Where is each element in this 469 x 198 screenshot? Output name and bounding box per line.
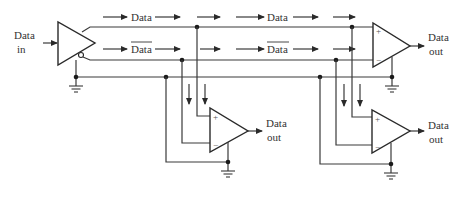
svg-text:+: + bbox=[376, 26, 381, 36]
bus-flow-labels: Data Data Data Data bbox=[103, 11, 355, 55]
bus-label-data-bar-1: Data bbox=[131, 43, 152, 55]
driver-amplifier: Data in bbox=[14, 22, 392, 92]
driver-triangle-icon bbox=[58, 22, 95, 65]
data-out-label-line2: out bbox=[267, 131, 281, 143]
data-out-label-line1: Data bbox=[428, 119, 449, 131]
bus-label-data-2: Data bbox=[267, 11, 288, 23]
differential-bus-diagram: Data in Data Data Data bbox=[0, 0, 469, 198]
data-line bbox=[82, 27, 373, 32]
svg-text:−: − bbox=[375, 142, 380, 152]
data-in-label-line2: in bbox=[17, 43, 26, 55]
data-out-label-line1: Data bbox=[266, 117, 287, 129]
svg-text:+: + bbox=[213, 112, 218, 122]
bus-label-data-bar-2: Data bbox=[267, 43, 288, 55]
data-out-label-line2: out bbox=[429, 45, 443, 57]
receiver-top-right: + − Data out bbox=[373, 23, 449, 92]
data-in-label-line1: Data bbox=[14, 29, 35, 41]
bus-label-data-1: Data bbox=[131, 11, 152, 23]
svg-text:−: − bbox=[213, 140, 218, 150]
ground-icon bbox=[384, 173, 398, 179]
data-out-label-line1: Data bbox=[428, 31, 449, 43]
ground-icon bbox=[69, 86, 83, 92]
data-bar-line bbox=[83, 57, 373, 60]
inverting-bubble-icon bbox=[79, 53, 84, 58]
data-out-label-line2: out bbox=[429, 133, 443, 145]
svg-text:−: − bbox=[376, 55, 381, 65]
ground-icon bbox=[385, 86, 399, 92]
ground-icon bbox=[221, 171, 235, 177]
svg-text:+: + bbox=[375, 114, 380, 124]
